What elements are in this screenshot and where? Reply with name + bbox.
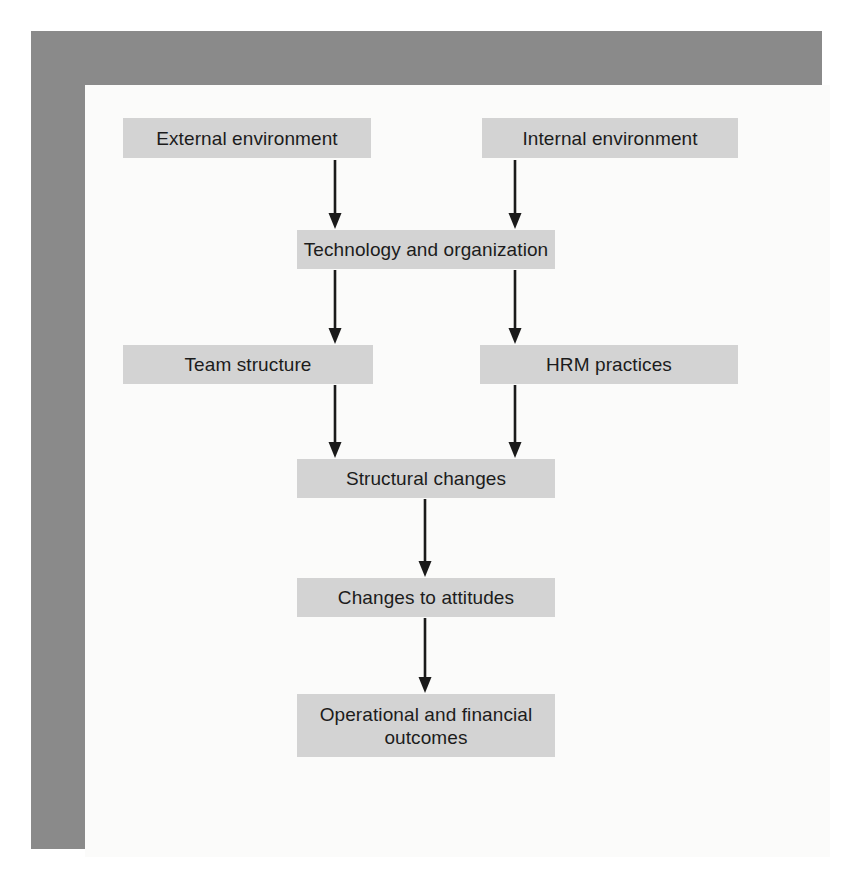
edge-external-to-technology [329, 160, 342, 229]
arrow-head-icon [509, 328, 522, 344]
flowchart-node-hrm-practices: HRM practices [480, 345, 738, 384]
arrow-head-icon [509, 213, 522, 229]
edge-structural-to-attitudes [419, 499, 432, 577]
arrow-head-icon [419, 561, 432, 577]
arrow-head-icon [329, 213, 342, 229]
edge-technology-to-team [329, 270, 342, 344]
flowchart-node-operational-outcomes: Operational and financial outcomes [297, 694, 555, 757]
edge-attitudes-to-outcomes [419, 618, 432, 693]
flowchart-node-team-structure: Team structure [123, 345, 373, 384]
arrow-head-icon [509, 442, 522, 458]
flowchart-canvas: External environmentInternal environment… [0, 0, 846, 873]
figure-screenshot: External environmentInternal environment… [0, 0, 846, 873]
edge-technology-to-hrm [509, 270, 522, 344]
arrow-head-icon [419, 677, 432, 693]
edge-hrm-to-structural [509, 385, 522, 458]
edge-internal-to-technology [509, 160, 522, 229]
arrow-head-icon [329, 442, 342, 458]
flowchart-node-internal-environment: Internal environment [482, 118, 738, 158]
edge-team-to-structural [329, 385, 342, 458]
flowchart-node-changes-to-attitudes: Changes to attitudes [297, 578, 555, 617]
flowchart-node-external-environment: External environment [123, 118, 371, 158]
flowchart-node-technology-org: Technology and organization [297, 230, 555, 269]
flowchart-node-structural-changes: Structural changes [297, 459, 555, 498]
arrow-head-icon [329, 328, 342, 344]
